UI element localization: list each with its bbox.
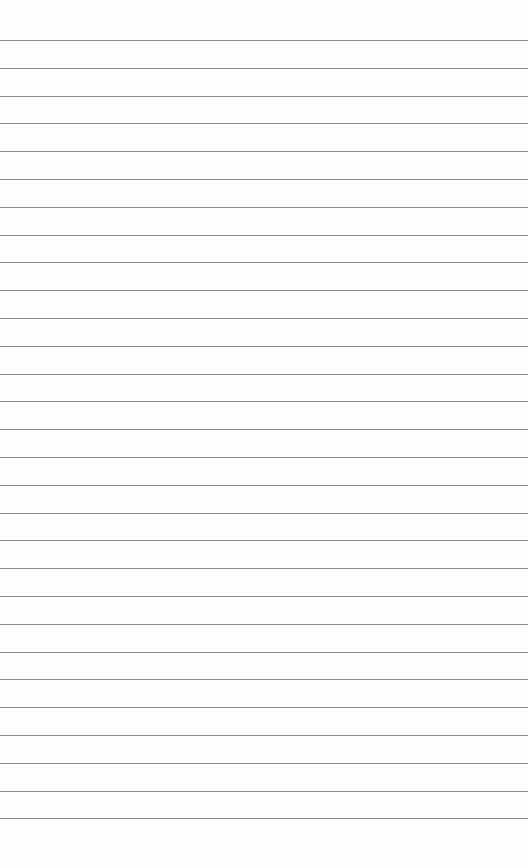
ruled-line bbox=[0, 290, 528, 291]
ruled-line bbox=[0, 207, 528, 208]
ruled-line bbox=[0, 179, 528, 180]
ruled-line bbox=[0, 652, 528, 653]
ruled-line bbox=[0, 679, 528, 680]
ruled-line bbox=[0, 429, 528, 430]
ruled-line bbox=[0, 235, 528, 236]
ruled-line bbox=[0, 485, 528, 486]
ruled-line bbox=[0, 40, 528, 41]
ruled-line bbox=[0, 624, 528, 625]
ruled-line bbox=[0, 151, 528, 152]
ruled-line bbox=[0, 457, 528, 458]
ruled-line bbox=[0, 791, 528, 792]
ruled-line bbox=[0, 735, 528, 736]
ruled-line bbox=[0, 318, 528, 319]
ruled-line bbox=[0, 513, 528, 514]
ruled-line bbox=[0, 540, 528, 541]
ruled-line bbox=[0, 123, 528, 124]
ruled-line bbox=[0, 596, 528, 597]
ruled-line bbox=[0, 96, 528, 97]
ruled-line bbox=[0, 346, 528, 347]
ruled-line bbox=[0, 374, 528, 375]
ruled-line bbox=[0, 401, 528, 402]
ruled-line bbox=[0, 262, 528, 263]
ruled-line bbox=[0, 568, 528, 569]
ruled-line bbox=[0, 818, 528, 819]
ruled-line bbox=[0, 763, 528, 764]
ruled-line bbox=[0, 68, 528, 69]
ruled-line bbox=[0, 707, 528, 708]
